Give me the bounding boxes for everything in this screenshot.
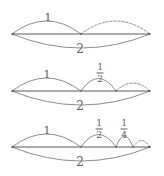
row-1-mid-tick	[80, 33, 81, 34]
math-figure: 1 2 1 1 2 2 1 1 2 1 4 2	[0, 0, 164, 176]
fraction-numerator: 1	[97, 63, 104, 73]
row-1-upper-arc-dashed	[81, 21, 150, 34]
row-2-upper-arc-dashed	[116, 83, 150, 91]
fraction-denominator: 2	[97, 74, 104, 84]
row-1-label-1: 1	[45, 12, 52, 23]
row-2-left-endpoint	[11, 90, 13, 92]
row-2-label-2: 2	[76, 100, 84, 112]
row-3-upper-arc-dashed	[133, 141, 150, 148]
row-2-label-1: 1	[44, 69, 51, 80]
row-3-left-endpoint	[11, 146, 13, 148]
row-3-right-endpoint	[148, 146, 150, 148]
row-1-right-endpoint	[148, 33, 150, 35]
row-3-quarter-tick	[115, 146, 116, 147]
row-2-quarter-tick	[115, 90, 116, 91]
row-3-label-1: 1	[44, 125, 51, 136]
row-2-label-one-half: 1 2	[97, 63, 104, 84]
row-3-label-one-half: 1 2	[96, 119, 103, 140]
row-3-label-one-quarter: 1 4	[121, 119, 128, 140]
row-3-label-2: 2	[76, 156, 84, 168]
row-2-right-endpoint	[148, 90, 150, 92]
row-3-mid-tick	[80, 146, 81, 147]
row-1-label-2: 2	[76, 43, 84, 55]
fraction-denominator: 2	[96, 130, 103, 140]
fraction-denominator: 4	[121, 130, 128, 140]
row-3-eighth-tick	[132, 146, 133, 147]
row-2-mid-tick	[80, 90, 81, 91]
fraction-numerator: 1	[121, 119, 128, 129]
diagram-canvas	[0, 0, 164, 176]
row-1-left-endpoint	[11, 33, 13, 35]
fraction-numerator: 1	[96, 119, 103, 129]
